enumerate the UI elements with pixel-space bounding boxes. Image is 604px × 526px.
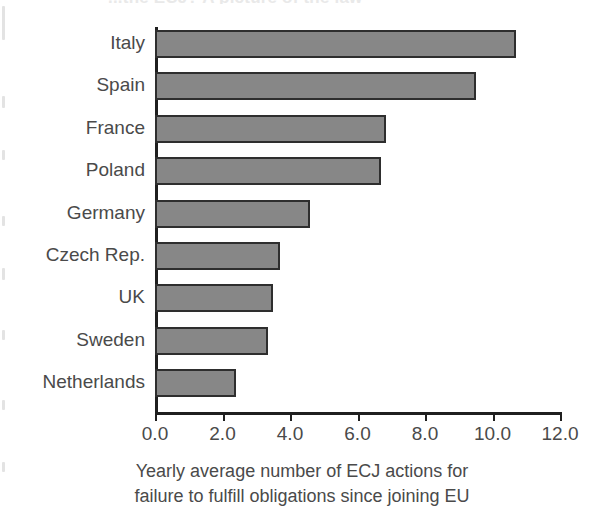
bar-row	[155, 242, 280, 270]
x-axis-caption-line-2: failure to fulfill obligations since joi…	[0, 484, 604, 509]
x-tick-mark	[290, 412, 292, 421]
bar-row	[155, 30, 516, 58]
x-axis-caption-line-1: Yearly average number of ECJ actions for	[0, 459, 604, 484]
x-tick-label: 12.0	[530, 423, 590, 445]
category-label: UK	[0, 286, 145, 308]
x-tick-mark	[155, 412, 157, 421]
bar-row	[155, 284, 273, 312]
bar	[155, 30, 516, 58]
x-tick-label: 8.0	[395, 423, 455, 445]
category-label: Sweden	[0, 329, 145, 351]
bar	[155, 157, 381, 185]
bar-row	[155, 200, 310, 228]
bar	[155, 200, 310, 228]
x-tick-label: 4.0	[260, 423, 320, 445]
x-tick-mark	[223, 412, 225, 421]
bar	[155, 284, 273, 312]
category-label: Germany	[0, 202, 145, 224]
bar-chart-figure: ...the ECJ? A picture of the law ItalySp…	[0, 0, 604, 526]
bar	[155, 115, 386, 143]
x-tick-mark	[560, 412, 562, 421]
bar	[155, 369, 236, 397]
category-label: Poland	[0, 159, 145, 181]
x-tick-label: 0.0	[125, 423, 185, 445]
bar-row	[155, 72, 476, 100]
x-tick-label: 6.0	[328, 423, 388, 445]
bar	[155, 327, 268, 355]
bar	[155, 242, 280, 270]
category-label: France	[0, 117, 145, 139]
category-label: Spain	[0, 74, 145, 96]
bar-row	[155, 115, 386, 143]
x-tick-mark	[493, 412, 495, 421]
category-label: Czech Rep.	[0, 244, 145, 266]
x-tick-label: 10.0	[463, 423, 523, 445]
x-axis-caption: Yearly average number of ECJ actions for…	[0, 459, 604, 509]
x-tick-mark	[425, 412, 427, 421]
bar-row	[155, 327, 268, 355]
bar-row	[155, 369, 236, 397]
category-label: Netherlands	[0, 371, 145, 393]
bar-row	[155, 157, 381, 185]
bar	[155, 72, 476, 100]
x-tick-label: 2.0	[193, 423, 253, 445]
x-tick-mark	[358, 412, 360, 421]
category-label: Italy	[0, 32, 145, 54]
